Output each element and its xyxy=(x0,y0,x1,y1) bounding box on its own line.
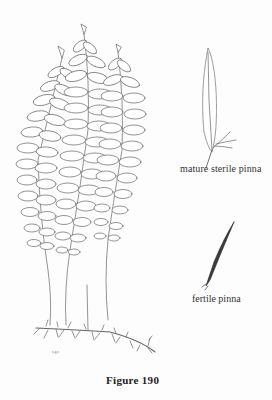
figure-page: mature sterile pinna fertile pinna s.g.r… xyxy=(0,0,272,400)
fern-plant-illustration xyxy=(0,0,272,400)
figure-label: Figure 190 xyxy=(106,374,159,386)
artist-signature: s.g.r. xyxy=(52,349,60,354)
caption-fertile-pinna: fertile pinna xyxy=(192,293,241,304)
fertile-pinna-drawing xyxy=(202,222,234,290)
mature-sterile-pinna-drawing xyxy=(203,48,236,168)
caption-mature-sterile-pinna: mature sterile pinna xyxy=(180,163,261,174)
frond-right xyxy=(94,44,146,320)
young-stipe xyxy=(87,285,88,330)
